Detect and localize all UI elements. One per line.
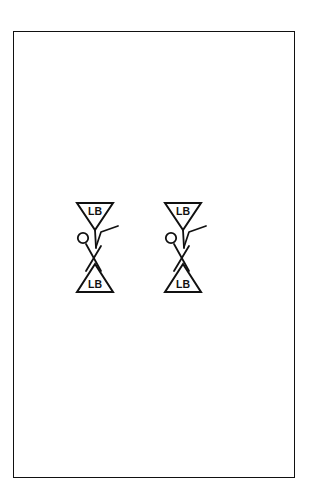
figure-right: LB LB [165, 203, 206, 292]
page-canvas: LB LB LB [0, 0, 309, 503]
figure-right-head-circle [166, 233, 176, 243]
figure-left-top-label: LB [88, 205, 102, 217]
figure-left: LB LB [77, 203, 118, 292]
figure-right-top-label: LB [176, 205, 190, 217]
figure-left-bottom-label: LB [88, 278, 102, 290]
figure-right-arm [184, 226, 206, 247]
diagram-svg: LB LB LB [0, 0, 309, 503]
figure-left-arm [96, 226, 118, 247]
figure-left-head-circle [78, 233, 88, 243]
diagram-figure-area: LB LB LB [0, 0, 309, 503]
figure-right-bottom-label: LB [176, 278, 190, 290]
